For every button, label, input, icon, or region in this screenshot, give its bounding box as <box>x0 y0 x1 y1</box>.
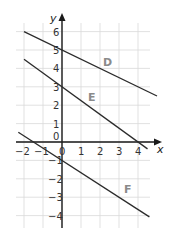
tick-labels: −2−1012346543210−1−2−3−4 <box>15 27 141 222</box>
line-d <box>24 32 157 96</box>
y-tick-label: 1 <box>53 119 59 130</box>
x-axis-label: x <box>156 143 164 156</box>
y-tick-label: −4 <box>48 211 63 222</box>
y-tick-label: −1 <box>48 155 63 166</box>
x-tick-label: 1 <box>78 146 84 157</box>
line-label-d: D <box>103 56 112 69</box>
line-label-f: F <box>124 183 132 196</box>
line-graph: x y −2−1012346543210−1−2−3−4 D E F <box>0 0 169 245</box>
y-tick-label: −3 <box>48 192 63 203</box>
y-tick-label: −2 <box>48 174 63 185</box>
grid <box>16 23 150 228</box>
y-tick-label: 6 <box>53 27 59 38</box>
y-tick-label: 0 <box>53 131 59 142</box>
line-f <box>18 132 149 217</box>
line-e <box>24 59 148 149</box>
y-axis-arrow-icon <box>59 13 66 21</box>
y-axis-label: y <box>49 12 57 25</box>
y-tick-label: 2 <box>53 100 59 111</box>
x-tick-label: 4 <box>135 146 141 157</box>
line-label-e: E <box>88 91 96 104</box>
y-tick-label: 4 <box>53 63 59 74</box>
x-tick-label: −2 <box>15 146 30 157</box>
series-lines <box>18 32 157 217</box>
x-tick-label: 3 <box>116 146 122 157</box>
x-tick-label: 2 <box>97 146 103 157</box>
